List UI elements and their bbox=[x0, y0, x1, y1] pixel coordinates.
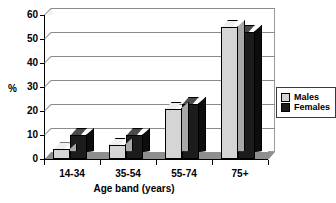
y-axis-tick bbox=[40, 87, 45, 88]
x-axis-label: 14-34 bbox=[42, 168, 102, 179]
legend: Males Females bbox=[276, 87, 336, 118]
bar-front-face bbox=[165, 109, 182, 159]
legend-item-males: Males bbox=[281, 93, 330, 102]
legend-item-females: Females bbox=[281, 103, 330, 112]
x-axis-title: Age band (years) bbox=[0, 183, 336, 194]
y-axis-tick bbox=[40, 63, 45, 64]
x-axis-tick bbox=[268, 160, 269, 165]
y-axis-label: 20 bbox=[16, 106, 38, 116]
x-axis-label: 35-54 bbox=[98, 168, 158, 179]
y-axis-label: 10 bbox=[16, 130, 38, 140]
y-axis-label: 60 bbox=[16, 10, 38, 20]
x-axis-tick bbox=[44, 160, 45, 165]
x-axis-label: 75+ bbox=[210, 168, 270, 179]
bar-males-35-54 bbox=[109, 145, 126, 159]
y-axis-tick bbox=[40, 15, 45, 16]
gridline bbox=[51, 8, 275, 9]
legend-swatch-males-icon bbox=[281, 93, 290, 102]
x-axis-label: 55-74 bbox=[154, 168, 214, 179]
y-axis-tick bbox=[40, 39, 45, 40]
y-axis-label: 50 bbox=[16, 34, 38, 44]
bar-front-face bbox=[221, 27, 238, 159]
x-axis-tick bbox=[100, 160, 101, 165]
y-axis-label: 0 bbox=[16, 154, 38, 164]
bar-side-face bbox=[198, 97, 206, 152]
bar-front-face bbox=[53, 149, 70, 159]
bar-side-face bbox=[237, 20, 245, 152]
bar-males-14-34 bbox=[53, 149, 70, 159]
y-axis-tick bbox=[40, 111, 45, 112]
legend-label-females: Females bbox=[294, 103, 330, 112]
bar-side-face bbox=[181, 102, 189, 152]
bar-chart: 0102030405060 % 14-3435-5455-7475+ Age b… bbox=[0, 0, 336, 203]
y-axis-tick bbox=[40, 135, 45, 136]
legend-label-males: Males bbox=[294, 93, 319, 102]
x-axis-tick bbox=[212, 160, 213, 165]
y-axis-title: % bbox=[8, 83, 17, 94]
y-axis-label: 40 bbox=[16, 58, 38, 68]
y-axis-label: 30 bbox=[16, 82, 38, 92]
bar-males-55-74 bbox=[165, 109, 182, 159]
x-axis-tick bbox=[156, 160, 157, 165]
bar-side-face bbox=[254, 25, 262, 152]
bar-males-75+ bbox=[221, 27, 238, 159]
bar-front-face bbox=[109, 145, 126, 159]
legend-swatch-females-icon bbox=[281, 103, 290, 112]
